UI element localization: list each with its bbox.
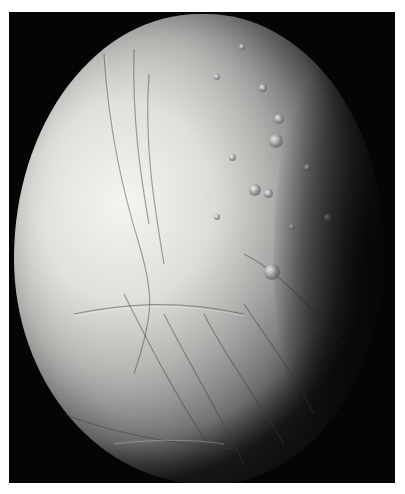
crater — [274, 114, 284, 124]
crater — [269, 134, 283, 148]
terminator-shadow — [274, 44, 394, 464]
crater — [239, 44, 245, 50]
crater — [259, 84, 267, 92]
image-frame — [9, 12, 395, 483]
crater — [264, 189, 273, 198]
crater — [214, 214, 220, 220]
crater — [249, 184, 261, 196]
moon-disc — [14, 14, 384, 483]
crater — [214, 74, 220, 80]
crater — [229, 154, 236, 161]
